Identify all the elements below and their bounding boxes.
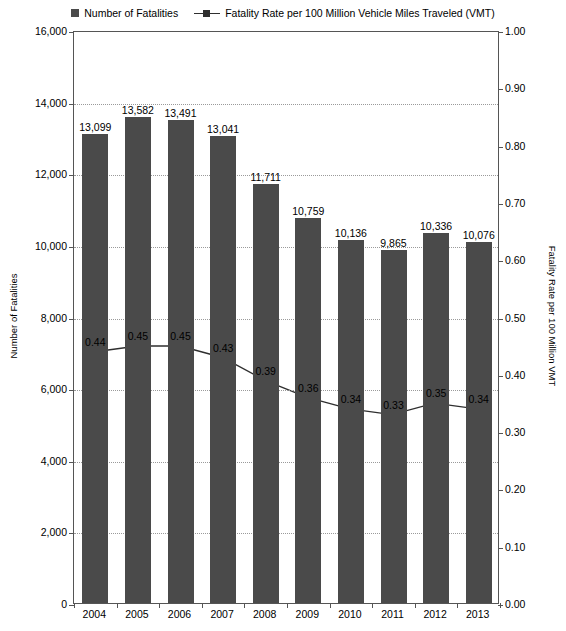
bar-value-label: 10,336 [420,220,452,232]
left-axis-tickmark [69,319,74,320]
bar-2008 [253,184,279,603]
bar-value-label: 11,711 [250,171,281,183]
rate-value-label: 0.45 [170,330,190,342]
x-axis-tickmark [415,603,416,608]
left-axis-tickmark [69,533,74,534]
right-axis-tickmark [498,89,503,90]
bar-2005 [125,117,151,603]
x-axis-tickmark [159,603,160,608]
rate-value-label: 0.44 [85,336,105,348]
bar-value-label: 13,491 [164,107,196,119]
left-axis-tickmark [69,175,74,176]
x-axis-tick-label: 2005 [125,608,148,620]
x-axis-tick-label: 2004 [83,608,106,620]
plot-area: 13,09913,58213,49113,04111,71110,75910,1… [73,31,499,604]
right-axis-tickmark [498,32,503,33]
x-axis-tickmark [244,603,245,608]
bar-2006 [168,120,194,603]
left-axis-tickmark [69,247,74,248]
x-axis-tickmark [202,603,203,608]
rate-value-label: 0.33 [383,399,403,411]
x-axis-tickmark [457,603,458,608]
bar-2010 [338,240,364,603]
x-axis-tickmark [287,603,288,608]
rate-value-label: 0.36 [298,382,318,394]
x-axis-tick-label: 2013 [466,608,489,620]
rate-value-label: 0.35 [426,387,446,399]
dual-axis-chart: Number of Fatalities Fatality Rate per 1… [0,0,566,631]
x-axis-tickmark [117,603,118,608]
right-axis-tickmark [498,261,503,262]
x-axis-tick-label: 2012 [423,608,446,620]
bar-2013 [466,242,492,603]
right-axis-tickmark [498,319,503,320]
rate-value-label: 0.34 [341,393,361,405]
bar-2011 [381,250,407,603]
bar-2004 [82,134,108,603]
right-axis-tickmark [498,204,503,205]
left-axis-tickmark [69,32,74,33]
left-axis-tickmark [69,104,74,105]
bar-value-label: 10,076 [463,229,495,241]
right-axis-tickmark [498,147,503,148]
bar-2007 [210,136,236,603]
x-axis-tickmark [372,603,373,608]
bar-value-label: 10,136 [335,227,367,239]
rate-value-label: 0.45 [128,330,148,342]
x-axis-tick-label: 2011 [381,608,404,620]
right-axis-tickmark [498,433,503,434]
right-axis-tickmark [498,490,503,491]
rate-value-label: 0.34 [468,393,488,405]
x-axis-tick-label: 2010 [338,608,361,620]
bar-value-label: 13,041 [207,123,239,135]
right-axis-tickmark [498,376,503,377]
bar-value-label: 13,099 [79,121,111,133]
rate-value-label: 0.39 [255,365,275,377]
x-axis-tick-label: 2008 [253,608,276,620]
bar-2009 [295,218,321,603]
x-axis-tickmark [500,603,501,608]
x-axis-tick-label: 2007 [210,608,233,620]
left-axis-tickmark [69,390,74,391]
bar-2012 [423,233,449,603]
rate-value-label: 0.43 [213,342,233,354]
x-axis-tickmark [330,603,331,608]
x-axis-tick-label: 2009 [296,608,319,620]
bar-value-label: 10,759 [292,205,324,217]
x-axis-tickmark [74,603,75,608]
bar-value-label: 13,582 [122,104,154,116]
right-axis-tickmark [498,548,503,549]
bar-value-label: 9,865 [380,237,406,249]
x-axis-tick-label: 2006 [168,608,191,620]
left-axis-tickmark [69,462,74,463]
